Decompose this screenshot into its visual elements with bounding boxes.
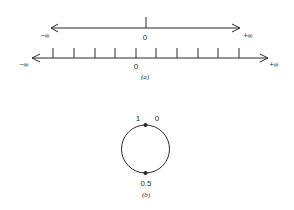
circle-diagram: 1 0 0.5 <box>122 114 170 188</box>
caption-a: (a) <box>141 73 150 81</box>
tick-marks <box>53 48 239 58</box>
top-left-infinity-label: −∞ <box>40 32 49 39</box>
top-number-line: −∞ +∞ 0 <box>40 17 252 42</box>
label-zero: 0 <box>155 114 160 123</box>
top-origin-label: 0 <box>143 33 148 42</box>
bottom-number-line: −∞ +∞ 0 <box>19 48 278 71</box>
bottom-point <box>144 171 148 175</box>
caption-b: (b) <box>142 191 151 199</box>
bottom-origin-label: 0 <box>134 62 139 71</box>
top-point <box>144 123 148 127</box>
bottom-left-infinity-label: −∞ <box>19 61 28 68</box>
top-right-infinity-label: +∞ <box>243 32 252 39</box>
bottom-right-infinity-label: +∞ <box>269 61 278 68</box>
diagram-canvas: −∞ +∞ 0 −∞ +∞ 0 (a) 1 0 0.5 ( <box>0 0 294 210</box>
label-one: 1 <box>136 114 141 123</box>
label-half: 0.5 <box>140 179 152 188</box>
circle <box>122 125 170 173</box>
